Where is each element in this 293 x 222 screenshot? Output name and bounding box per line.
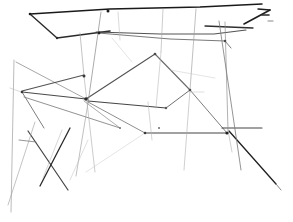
node-top-band-apex xyxy=(56,37,58,39)
node-bottom-dot xyxy=(158,127,160,129)
node-quad-top xyxy=(154,53,157,56)
node-quad-bottom-right xyxy=(165,107,167,109)
sketch-canvas xyxy=(0,0,293,222)
node-top-band-mid xyxy=(107,10,110,13)
node-left-edge xyxy=(21,91,24,94)
node-mid-dot xyxy=(119,127,121,129)
line-drawing xyxy=(0,0,293,222)
node-lower-quad-bottom xyxy=(144,132,147,135)
node-top-band-left xyxy=(29,13,32,16)
node-hub-upper xyxy=(83,75,86,78)
node-hub-center xyxy=(84,97,88,101)
node-quad-right xyxy=(189,89,192,92)
top-right-arrow-barb xyxy=(258,9,270,10)
node-band-lower-left xyxy=(98,32,101,35)
node-upper-right xyxy=(224,40,227,43)
node-right-hub xyxy=(225,131,228,134)
